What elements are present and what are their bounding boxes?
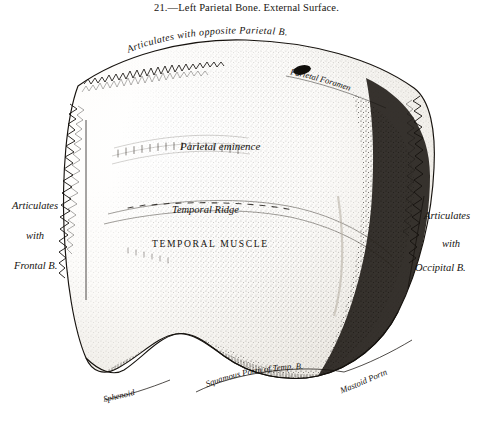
label-frontal-line1: Articulates — [11, 200, 58, 211]
label-frontal-line2: with — [26, 230, 44, 241]
label-occipital-line2: with — [442, 238, 460, 249]
label-parietal-eminence: Parietal eminence — [179, 140, 260, 152]
label-frontal-line3: Frontal B. — [13, 260, 57, 271]
label-sphenoid: Sphenoid — [102, 387, 136, 404]
figure-plate: 21.—Left Parietal Bone. External Surface… — [0, 0, 493, 422]
parietal-bone-illustration: Articulates with opposite Parietal B. Pa… — [0, 0, 493, 422]
bone-body — [0, 0, 493, 422]
label-temporal-ridge: Temporal Ridge — [172, 204, 239, 215]
label-mastoid-portion: Mastoid Portn — [338, 367, 389, 396]
label-occipital-line3: Occipital B. — [415, 262, 466, 273]
label-occipital-line1: Articulates — [423, 210, 470, 221]
label-temporal-muscle: TEMPORAL MUSCLE — [152, 238, 269, 249]
